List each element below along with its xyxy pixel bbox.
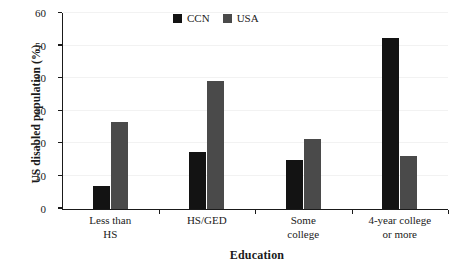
x-tick-mark	[448, 210, 449, 214]
y-tick-label: 50	[35, 40, 46, 51]
y-tick-label: 30	[35, 105, 46, 116]
x-axis-title: Education	[62, 248, 452, 263]
x-category-label-line: or more	[352, 228, 449, 242]
bar-usa	[400, 156, 417, 209]
bar-usa	[111, 122, 128, 208]
y-tick-mark	[58, 44, 62, 45]
y-tick-label: 0	[41, 203, 47, 214]
y-tick-label: 20	[35, 138, 46, 149]
bar-ccn	[93, 186, 110, 209]
y-tick-label: 60	[35, 8, 46, 19]
y-tick-mark	[58, 207, 62, 208]
bar-ccn	[382, 38, 399, 208]
gridline	[63, 12, 448, 13]
x-category-label-line: 4-year college	[352, 214, 449, 228]
x-category-label: Somecollege	[255, 214, 352, 241]
x-category-label-line: Some	[255, 214, 352, 228]
bar-ccn	[189, 152, 206, 209]
y-tick-mark	[58, 12, 62, 13]
y-axis-spine	[62, 13, 63, 210]
y-tick-mark	[58, 175, 62, 176]
x-category-label-line: Less than	[62, 214, 159, 228]
bar-chart-figure: US disabled population (%) CCN USA 01020…	[0, 0, 461, 271]
x-category-label: 4-year collegeor more	[352, 214, 449, 241]
x-category-label: HS/GED	[159, 214, 256, 228]
y-tick-label: 10	[35, 171, 46, 182]
y-tick-mark	[58, 77, 62, 78]
plot-area: 0102030405060	[62, 13, 448, 210]
bar-usa	[207, 81, 224, 209]
y-tick-label: 40	[35, 73, 46, 84]
y-tick-mark	[58, 110, 62, 111]
x-category-label-line: HS/GED	[159, 214, 256, 228]
bar-ccn	[286, 160, 303, 208]
bar-usa	[304, 139, 321, 208]
x-category-label: Less thanHS	[62, 214, 159, 241]
y-tick-mark	[58, 142, 62, 143]
x-category-label-line: HS	[62, 228, 159, 242]
x-category-label-line: college	[255, 228, 352, 242]
